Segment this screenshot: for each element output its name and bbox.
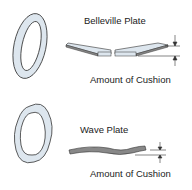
wave-cushion-label: Amount of Cushion	[90, 168, 171, 179]
wave-plate-title: Wave Plate	[80, 124, 128, 135]
belleville-plate-title: Belleville Plate	[84, 15, 146, 26]
diagram-canvas	[0, 0, 192, 190]
wave-cross-section	[69, 146, 146, 155]
wave-ring	[14, 104, 52, 163]
belleville-cushion-label: Amount of Cushion	[90, 74, 171, 85]
belleville-cross-section	[66, 43, 168, 56]
wave-dimension-arrows	[135, 142, 166, 163]
belleville-ring	[7, 10, 52, 81]
